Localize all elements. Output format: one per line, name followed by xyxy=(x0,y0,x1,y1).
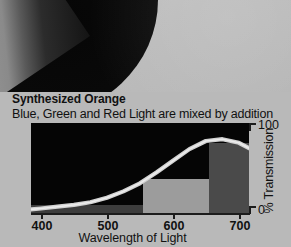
y-axis-title-wrapper: % Transmission xyxy=(262,128,278,212)
figure-root: Synthesized Orange Blue, Green and Red L… xyxy=(0,0,291,247)
photo-region xyxy=(0,0,291,92)
transmission-curve xyxy=(31,123,249,213)
figure-title: Synthesized Orange xyxy=(12,92,126,106)
y-tick-0 xyxy=(249,206,256,208)
x-axis-title: Wavelength of Light xyxy=(0,231,265,245)
y-tick-100 xyxy=(249,123,256,125)
y-axis-title: % Transmission xyxy=(262,128,276,213)
figure-subtitle: Blue, Green and Red Light are mixed by a… xyxy=(12,107,273,121)
plot-area xyxy=(31,123,249,213)
x-axis-line xyxy=(31,213,250,215)
photo-sheen-overlay xyxy=(0,0,291,92)
